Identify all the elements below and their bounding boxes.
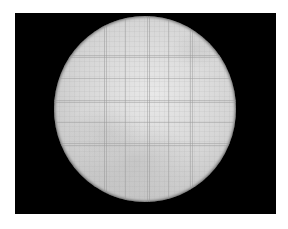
field-of-view bbox=[54, 16, 236, 202]
counting-grid bbox=[54, 16, 236, 202]
grid-line-horizontal bbox=[54, 102, 236, 103]
grid-line-horizontal bbox=[54, 55, 236, 56]
grid-line-horizontal bbox=[54, 145, 236, 146]
grid-line-horizontal bbox=[54, 57, 236, 58]
grid-line-vertical bbox=[190, 16, 191, 202]
grid-line-vertical bbox=[168, 16, 169, 202]
grid-line-horizontal bbox=[54, 143, 236, 144]
grid-line-vertical bbox=[104, 16, 105, 202]
grid-line-vertical bbox=[192, 16, 193, 202]
microscope-frame bbox=[15, 13, 276, 214]
grid-line-horizontal bbox=[54, 78, 236, 79]
grid-line-vertical bbox=[106, 16, 107, 202]
grid-line-horizontal bbox=[54, 100, 236, 101]
grid-line-vertical bbox=[147, 16, 148, 202]
grid-line-vertical bbox=[149, 16, 150, 202]
grid-line-horizontal bbox=[54, 122, 236, 123]
grid-line-vertical bbox=[125, 16, 126, 202]
